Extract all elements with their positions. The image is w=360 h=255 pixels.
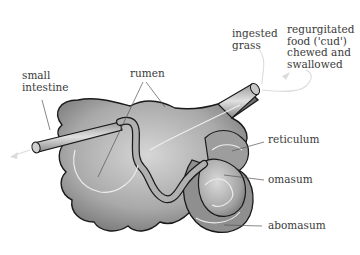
leader-small-intestine — [42, 100, 50, 130]
intestine-exit-arrowhead — [10, 152, 18, 159]
label-regurgitated-line3: chewed and — [287, 47, 354, 59]
label-small-intestine-line1: small — [22, 70, 69, 82]
label-abomasum: abomasum — [268, 220, 326, 232]
label-ingested-grass: ingested grass — [232, 28, 278, 51]
label-reticulum: reticulum — [268, 134, 320, 146]
cud-arrowhead — [282, 72, 290, 80]
label-omasum: omasum — [268, 174, 313, 186]
label-rumen: rumen — [130, 68, 165, 80]
ruminant-stomach-diagram: small intestine rumen ingested grass reg… — [0, 0, 360, 255]
label-regurgitated-line4: swallowed — [287, 59, 354, 71]
cud-arrow — [262, 70, 311, 91]
label-small-intestine: small intestine — [22, 70, 69, 93]
label-ingested-line2: grass — [232, 40, 278, 52]
label-regurgitated-line1: regurgitated — [287, 24, 354, 36]
label-regurgitated: regurgitated food ('cud') chewed and swa… — [287, 24, 354, 70]
label-ingested-line1: ingested — [232, 28, 278, 40]
ingested-grass-arrow — [258, 48, 264, 84]
label-small-intestine-line2: intestine — [22, 82, 69, 94]
